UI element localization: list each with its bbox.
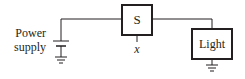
light-label: Light — [199, 37, 226, 51]
wire-switch-to-light — [152, 19, 212, 29]
circuit-diagram: Power supply S x Light — [0, 0, 245, 79]
power-supply-label: Power — [15, 26, 46, 40]
switch-label: S — [133, 12, 140, 27]
ground-icon — [206, 65, 218, 71]
power-supply-label-2: supply — [14, 40, 46, 54]
ground-icon — [55, 57, 67, 63]
wire-supply-to-switch — [61, 19, 122, 41]
control-label: x — [133, 42, 140, 56]
